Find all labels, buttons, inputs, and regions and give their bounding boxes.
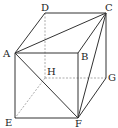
vertex-labels: A B C D E F G H: [2, 2, 116, 128]
vertex-label-e: E: [5, 117, 12, 128]
edge-gf: [78, 78, 106, 118]
edge-ad: [15, 13, 45, 53]
vertex-label-g: G: [108, 72, 116, 83]
vertex-label-f: F: [75, 118, 82, 128]
edge-af: [15, 53, 78, 118]
solid-edges: [15, 13, 106, 118]
cube-diagram: A B C D E F G H: [0, 0, 118, 128]
edge-he: [15, 78, 45, 118]
vertex-label-c: C: [105, 2, 113, 13]
vertex-label-a: A: [2, 48, 11, 59]
vertex-label-h: H: [47, 66, 56, 77]
vertex-label-b: B: [81, 51, 88, 62]
vertex-label-d: D: [41, 2, 49, 13]
edge-cf: [78, 13, 106, 118]
